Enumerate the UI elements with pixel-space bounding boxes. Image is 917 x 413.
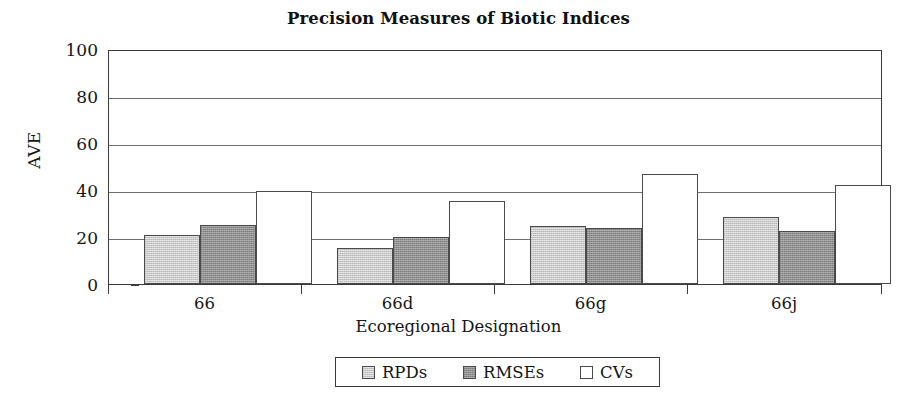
x-tick-label-66d: 66d	[301, 294, 494, 313]
legend-label-rmses: RMSEs	[483, 363, 544, 382]
legend-item-rmses[interactable]: RMSEs	[463, 363, 544, 382]
y-tick-label-100: 100	[38, 42, 98, 59]
plot-area	[108, 50, 882, 285]
x-tick-mark-2	[494, 285, 495, 294]
legend-swatch-cvs-icon	[580, 366, 593, 379]
gridline-60	[109, 145, 881, 146]
gridline-40	[109, 192, 881, 193]
y-tick-label-0: 0	[38, 277, 98, 294]
x-tick-mark-3	[687, 285, 688, 294]
bar-66-cvs[interactable]	[256, 191, 312, 284]
bar-66d-cvs[interactable]	[449, 201, 505, 284]
y-tick-mark-0	[131, 285, 139, 286]
x-tick-mark-4	[881, 285, 882, 294]
chart-title: Precision Measures of Biotic Indices	[0, 9, 917, 28]
bar-66g-cvs[interactable]	[642, 174, 698, 285]
bar-66g-rmses[interactable]	[586, 228, 642, 284]
y-axis-title: AVE	[24, 95, 44, 205]
y-tick-label-40: 40	[38, 183, 98, 200]
bar-chart-figure: Precision Measures of Biotic Indices 100…	[0, 0, 917, 413]
bar-66g-rpds[interactable]	[530, 226, 586, 284]
legend-swatch-rmses-icon	[463, 366, 476, 379]
y-tick-label-80: 80	[38, 89, 98, 106]
bar-66d-rmses[interactable]	[393, 237, 449, 284]
gridline-80	[109, 98, 881, 99]
x-tick-label-66g: 66g	[494, 294, 687, 313]
bar-66-rpds[interactable]	[144, 235, 200, 284]
bar-66j-cvs[interactable]	[835, 185, 891, 284]
bar-66d-rpds[interactable]	[337, 248, 393, 284]
y-tick-label-60: 60	[38, 136, 98, 153]
legend-swatch-rpds-icon	[362, 366, 375, 379]
chart-legend: RPDs RMSEs CVs	[335, 357, 660, 387]
x-tick-label-66j: 66j	[687, 294, 881, 313]
legend-label-rpds: RPDs	[382, 363, 427, 382]
x-tick-label-66: 66	[108, 294, 301, 313]
legend-item-rpds[interactable]: RPDs	[362, 363, 427, 382]
legend-item-cvs[interactable]: CVs	[580, 363, 633, 382]
bar-66-rmses[interactable]	[200, 225, 256, 284]
y-tick-label-20: 20	[38, 230, 98, 247]
x-tick-mark-0	[108, 285, 109, 294]
x-axis-title: Ecoregional Designation	[0, 317, 917, 336]
legend-label-cvs: CVs	[600, 363, 633, 382]
x-tick-mark-1	[301, 285, 302, 294]
bar-66j-rpds[interactable]	[723, 217, 779, 284]
bar-66j-rmses[interactable]	[779, 231, 835, 284]
